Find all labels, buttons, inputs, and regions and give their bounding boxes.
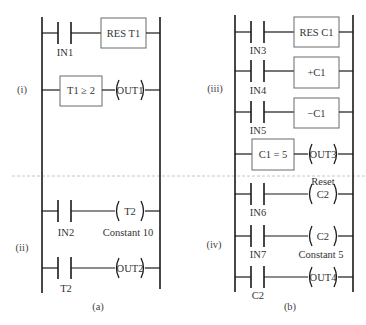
contact-label: IN2: [58, 227, 74, 238]
contact-no-icon: [251, 266, 264, 288]
panel-caption-b: (b): [284, 301, 297, 313]
coil-label: OUT3: [310, 149, 337, 160]
coil-label: C2: [317, 189, 329, 200]
reset-label: Reset: [311, 176, 334, 187]
rung-in5-count-down: −C1 IN5: [235, 98, 353, 136]
compare-label: T1 ≥ 2: [67, 85, 95, 96]
contact-label: IN6: [250, 207, 266, 218]
panel-caption-a: (a): [92, 301, 104, 313]
count-up-label: +C1: [307, 67, 325, 78]
coil-label: T2: [124, 206, 136, 217]
rung-in3-res-c1: RES C1 IN3: [235, 17, 353, 56]
rung-in2-t2: T2 IN2 Constant 10: [42, 200, 160, 238]
timer-constant-label: Constant 10: [103, 227, 153, 238]
rung-in1-res-t1: RES T1 IN1: [42, 18, 160, 58]
coil-label: C2: [317, 231, 329, 242]
count-down-label: −C1: [307, 108, 325, 119]
section-label-ii: (ii): [16, 242, 29, 254]
coil-label: OUT1: [117, 85, 144, 96]
section-label-iv: (iv): [206, 239, 222, 251]
rung-t1-compare-out1: T1 ≥ 2 OUT1: [42, 76, 160, 106]
rung-in4-count-up: +C1 IN4: [235, 57, 353, 96]
contact-label: IN1: [57, 47, 73, 58]
rung-t2-out2: OUT2 T2: [42, 257, 160, 294]
compare-label: C1 = 5: [259, 149, 288, 160]
contact-no-icon: [251, 225, 264, 247]
contact-label: IN7: [250, 249, 266, 260]
contact-no-icon: [58, 257, 71, 279]
panel-a: RES T1 IN1 T1 ≥ 2 OUT1: [16, 17, 160, 313]
contact-label: IN5: [250, 125, 266, 136]
counter-constant-label: Constant 5: [298, 249, 343, 260]
contact-no-icon: [251, 183, 264, 205]
coil-label: OUT2: [117, 263, 144, 274]
section-label-i: (i): [17, 84, 27, 96]
rung-c1-compare-out3: C1 = 5 OUT3: [235, 139, 353, 170]
contact-no-icon: [251, 60, 264, 82]
res-t1-label: RES T1: [107, 28, 140, 39]
contact-label: IN3: [250, 45, 266, 56]
rung-in6-reset-c2: Reset C2 IN6: [235, 176, 353, 218]
panel-b: RES C1 IN3 +C1 IN4 −C1: [206, 15, 353, 313]
res-c1-label: RES C1: [299, 27, 333, 38]
coil-label: OUT4: [310, 272, 338, 283]
contact-label: T2: [60, 283, 72, 294]
contact-no-icon: [251, 21, 264, 43]
contact-no-icon: [251, 101, 264, 123]
contact-label: C2: [252, 290, 264, 301]
rung-c2-out4: OUT4 C2: [235, 266, 353, 301]
contact-label: IN4: [250, 85, 267, 96]
ladder-diagram: RES T1 IN1 T1 ≥ 2 OUT1: [0, 0, 366, 325]
rung-in7-count-c2: C2 IN7 Constant 5: [235, 225, 353, 260]
section-label-iii: (iii): [207, 83, 223, 95]
contact-no-icon: [58, 22, 71, 44]
contact-no-icon: [58, 200, 71, 222]
